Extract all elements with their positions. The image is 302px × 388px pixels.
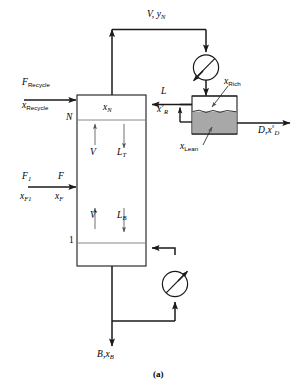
label-column-feed-composition: xF — [55, 192, 63, 202]
distillation-column-body — [77, 95, 146, 266]
label-decanter-lean-phase: xLean — [180, 142, 198, 152]
decanter-vessel — [192, 96, 237, 134]
label-column-bottom-stage: 1 — [69, 236, 74, 246]
label-rectifying-liquid: LT — [117, 148, 126, 158]
label-fresh-feed-composition: xF1 — [20, 192, 32, 202]
label-bottoms: B,xB — [97, 350, 114, 360]
label-rectifying-vapor: V — [90, 148, 96, 158]
label-column-top-stage: N — [66, 113, 72, 123]
label-recycle-composition: xRecycle — [22, 101, 48, 111]
label-fresh-feed-flow: F1 — [22, 172, 31, 182]
label-top-stage-composition: xN — [103, 103, 112, 113]
overhead-vapor-line — [112, 30, 206, 96]
label-reflux-composition: x°R — [157, 105, 168, 115]
flowsheet-drawing — [0, 0, 302, 388]
label-recycle-flow: FRecycle — [22, 78, 50, 88]
label-stripping-vapor: V — [90, 211, 96, 221]
condenser-symbol — [193, 55, 218, 96]
decanter-lean-phase-fill — [193, 112, 237, 134]
label-overhead-vapor: V, yN — [147, 10, 165, 20]
process-flow-diagram: V, yN FRecycle xRecycle N 1 xN L x°R xRi… — [0, 0, 302, 388]
label-column-feed-flow: F — [58, 172, 64, 182]
label-distillate: D,x°D — [258, 126, 279, 136]
figure-caption: (a) — [153, 369, 164, 379]
label-reflux-flow: L — [161, 87, 166, 97]
label-decanter-rich-phase: xRich — [224, 77, 241, 87]
label-stripping-liquid: LB — [117, 211, 126, 221]
